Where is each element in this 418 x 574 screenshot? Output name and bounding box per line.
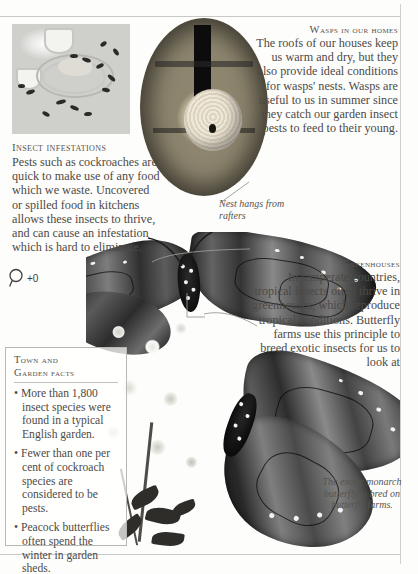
greenhouses-heading: Greenhouses	[252, 258, 400, 269]
facts-heading-line2: Garden facts	[14, 367, 118, 380]
fact-item: • More than 1,800 insect species were fo…	[14, 387, 118, 441]
facts-heading-line1: Town and	[14, 354, 118, 367]
zoom-level-label: +0	[27, 273, 38, 284]
facts-list: • More than 1,800 insect species were fo…	[14, 387, 118, 574]
wasps-body: The roofs of our houses keep us warm and…	[252, 36, 398, 135]
article-greenhouses: Greenhouses In temperate countries, trop…	[252, 258, 400, 369]
wasps-heading: Wasps in our homes	[252, 24, 398, 35]
zoom-control[interactable]: +0	[8, 268, 38, 288]
fact-item: • Peacock butterflies often spend the wi…	[14, 521, 118, 574]
wasp-nest	[184, 89, 242, 151]
caption-nest-hangs-from-rafters: Nest hangs from rafters	[219, 198, 305, 221]
greenhouses-body: In temperate countries, tropical insects…	[252, 270, 400, 369]
town-and-garden-facts-box: Town and Garden facts • More than 1,800 …	[5, 347, 127, 546]
food-photo	[12, 24, 130, 134]
article-wasps-in-our-homes: Wasps in our homes The roofs of our hous…	[252, 24, 398, 135]
magnifier-icon[interactable]	[8, 268, 26, 288]
fact-item: • Fewer than one per cent of cockroach s…	[14, 447, 118, 515]
top-rule	[0, 16, 400, 17]
insect-infestations-heading: Insect infestations	[12, 141, 162, 153]
article-insect-infestations: Insect infestations Pests such as cockro…	[12, 141, 162, 254]
book-page: Insect infestations Pests such as cockro…	[0, 0, 418, 574]
facts-divider	[14, 382, 118, 383]
insect-infestations-body: Pests such as cockroaches are quick to m…	[12, 155, 162, 254]
caption-exotic-monarch: The exotic monarch butterfly is bred on …	[322, 476, 402, 511]
